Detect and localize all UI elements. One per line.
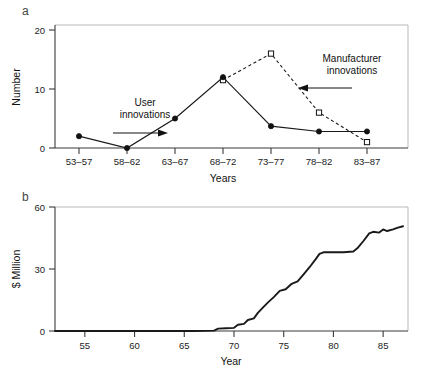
- data-point-user-innovations: [172, 116, 177, 121]
- annotation-manufacturer-arrow-head: [298, 84, 308, 91]
- y-tick-label: 20: [34, 25, 45, 36]
- y-axis-title-a: Number: [10, 68, 22, 106]
- x-ticks-b: 55606570758085: [80, 331, 389, 351]
- x-tick-label: 58–62: [114, 156, 140, 167]
- x-ticks-a: 53–57 58–62 63–67 68–72 73–77 78–82 83–8…: [66, 148, 380, 167]
- annotation-user-arrow-head: [158, 129, 168, 136]
- annotation-user-line2: innovations: [120, 109, 171, 120]
- panel-b: b 0 30 60 $ Million 55606570758085 Year: [0, 185, 423, 383]
- x-axis-title-b: Year: [220, 355, 242, 367]
- cumulative-sales-curve: [55, 226, 403, 331]
- chart-b-svg: 0 30 60 $ Million 55606570758085 Year: [0, 185, 423, 383]
- data-point-user-innovations: [268, 124, 273, 129]
- annotation-user-line1: User: [134, 97, 156, 108]
- x-tick-label: 63–67: [162, 156, 188, 167]
- data-point-manufacturer-innovations: [316, 110, 321, 115]
- y-tick-label: 0: [40, 326, 45, 337]
- data-point-user-innovations: [316, 129, 321, 134]
- data-point-manufacturer-innovations: [364, 140, 369, 145]
- annotation-manufacturer-line2: innovations: [327, 65, 378, 76]
- annotation-manufacturer-innovations: Manufacturer innovations: [298, 53, 382, 92]
- y-tick-label: 60: [34, 202, 45, 213]
- data-point-user-innovations: [76, 134, 81, 139]
- chart-a-svg: 0 10 20 Number 53–57 58–62 63–67 68–72 7…: [0, 0, 423, 190]
- data-point-user-innovations: [364, 129, 369, 134]
- x-tick-label: 75: [278, 340, 289, 351]
- panel-a: a 0 10 20 Number 53–57 58–62 63–6: [0, 0, 423, 190]
- x-tick-label: 78–82: [306, 156, 332, 167]
- y-axis-title-b: $ Million: [10, 250, 22, 289]
- x-tick-label: 53–57: [66, 156, 92, 167]
- y-tick-label: 10: [34, 84, 45, 95]
- y-ticks-a: 0 10 20: [34, 25, 55, 154]
- annotation-manufacturer-line1: Manufacturer: [323, 53, 383, 64]
- x-tick-label: 65: [179, 340, 190, 351]
- x-tick-label: 55: [80, 340, 91, 351]
- x-tick-label: 60: [129, 340, 140, 351]
- x-tick-label: 70: [229, 340, 240, 351]
- x-tick-label: 80: [328, 340, 339, 351]
- y-tick-label: 30: [34, 264, 45, 275]
- data-point-user-innovations: [220, 75, 225, 80]
- x-tick-label: 73–77: [258, 156, 284, 167]
- x-tick-label: 83–87: [354, 156, 380, 167]
- y-tick-label: 0: [40, 143, 45, 154]
- x-tick-label: 68–72: [210, 156, 236, 167]
- x-axis-title-a: Years: [210, 172, 236, 184]
- data-point-user-innovations: [124, 145, 129, 150]
- x-tick-label: 85: [378, 340, 389, 351]
- plot-frame-b: [55, 207, 408, 331]
- y-ticks-b: 0 30 60: [34, 202, 55, 337]
- data-point-manufacturer-innovations: [268, 51, 273, 56]
- annotation-user-innovations: User innovations: [113, 97, 170, 137]
